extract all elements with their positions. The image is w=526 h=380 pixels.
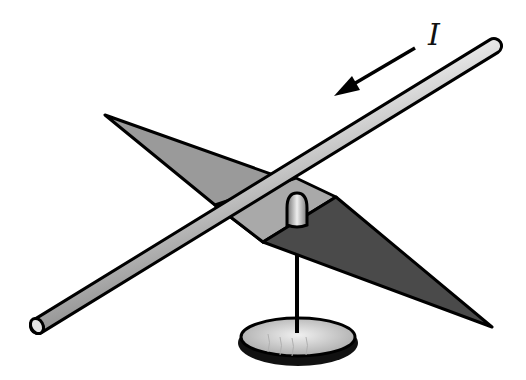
current-label: I [428, 20, 440, 50]
pivot-cap [287, 193, 307, 227]
current-direction-arrow-icon [334, 48, 415, 96]
diagram-figure [0, 0, 526, 380]
needle-wire-illustration [0, 0, 526, 380]
